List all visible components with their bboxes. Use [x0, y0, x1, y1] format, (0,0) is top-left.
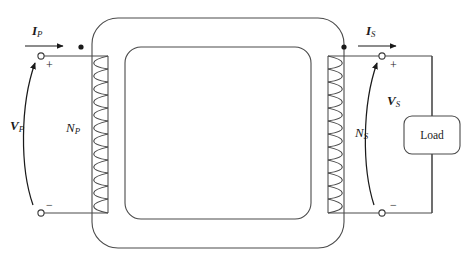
- primary-positive-sign: +: [46, 59, 53, 71]
- polarity-dot-secondary-icon: [341, 44, 346, 49]
- secondary-voltage-subscript: S: [396, 99, 400, 109]
- primary-turns-subscript: P: [75, 126, 80, 136]
- secondary-turns-subscript: S: [364, 131, 368, 141]
- secondary-turns-symbol: N: [355, 125, 364, 140]
- secondary-current-subscript: S: [371, 29, 375, 39]
- secondary-turns-label: NS: [355, 126, 368, 141]
- terminal-primary-positive: [38, 53, 44, 59]
- terminal-secondary-positive: [379, 53, 385, 59]
- primary-voltage-arc-icon: [23, 63, 35, 205]
- primary-winding: [94, 56, 108, 213]
- primary-voltage-subscript: P: [19, 124, 24, 134]
- secondary-winding: [328, 56, 342, 213]
- primary-negative-sign: −: [46, 199, 53, 211]
- load-label: Load: [404, 116, 460, 154]
- primary-turns-symbol: N: [66, 120, 75, 135]
- primary-voltage-symbol: V: [10, 118, 19, 133]
- transformer-figure: IP IS VP VS NP NS + − + − Load: [0, 0, 465, 266]
- terminal-primary-negative: [38, 210, 44, 216]
- secondary-positive-sign: +: [390, 59, 397, 71]
- secondary-negative-sign: −: [390, 199, 397, 211]
- core-inner-outline: [125, 47, 311, 219]
- primary-current-label: IP: [32, 24, 42, 39]
- secondary-voltage-symbol: V: [387, 93, 396, 108]
- secondary-voltage-label: VS: [387, 94, 400, 109]
- primary-turns-label: NP: [66, 121, 80, 136]
- secondary-current-label: IS: [366, 24, 375, 39]
- polarity-dot-primary-icon: [78, 44, 83, 49]
- terminal-secondary-negative: [379, 210, 385, 216]
- core-outer-outline: [92, 18, 344, 248]
- primary-voltage-label: VP: [10, 119, 24, 134]
- primary-current-subscript: P: [37, 29, 42, 39]
